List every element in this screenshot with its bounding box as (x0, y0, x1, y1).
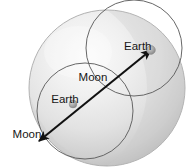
figure-container: Earth Moon Earth Moon (0, 0, 189, 168)
label-earth-lower: Earth (51, 93, 79, 105)
orbital-diagram-svg: Earth Moon Earth Moon (0, 0, 189, 168)
label-moon-lower-left: Moon (13, 128, 42, 140)
label-earth-upper: Earth (124, 40, 152, 52)
label-moon-center: Moon (79, 71, 108, 83)
